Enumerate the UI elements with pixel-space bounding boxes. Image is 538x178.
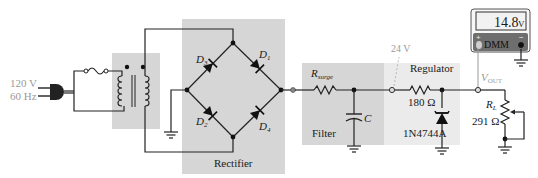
zener-part-number: 1N4744A — [403, 127, 446, 139]
dmm-label: DMM — [484, 39, 509, 50]
dmm-meter: 14.8 V + − DMM — [471, 9, 530, 52]
ground-icon-load — [498, 147, 512, 153]
ground-icon-rectifier — [164, 132, 178, 138]
series-resistor-value: 180 Ω — [408, 96, 435, 108]
load-resistor-value: 291 Ω — [472, 115, 499, 127]
transformer-block — [112, 53, 160, 129]
ground-icon-filter — [347, 146, 361, 152]
ground-icon-dmm — [514, 60, 528, 66]
load-resistor-label: RL — [485, 98, 497, 112]
dmm-unit: V — [518, 19, 525, 29]
dmm-plus-label: + — [476, 33, 481, 42]
test-point-24v — [389, 87, 394, 92]
capacitor-label: C — [364, 112, 372, 124]
ground-icon-zener — [435, 148, 449, 154]
ac-plug-icon — [38, 84, 74, 100]
source-voltage-label: 120 V — [10, 77, 37, 89]
power-supply-diagram: 120 V 60 Hz — [0, 0, 538, 178]
source-frequency-label: 60 Hz — [10, 90, 37, 102]
fuse-icon — [84, 68, 108, 74]
vout-terminal — [475, 87, 480, 92]
load-potentiometer-icon — [501, 100, 509, 124]
dmm-minus-label: − — [519, 33, 524, 42]
rectifier-label: Rectifier — [214, 157, 253, 169]
dmm-negative-jack[interactable] — [518, 42, 525, 49]
dmm-positive-jack[interactable] — [476, 41, 482, 49]
filter-label: Filter — [312, 127, 336, 139]
vout-label: VOUT — [481, 71, 503, 85]
dmm-reading: 14.8 — [494, 15, 519, 30]
test-point-voltage-label: 24 V — [391, 43, 411, 54]
regulator-label: Regulator — [410, 62, 454, 74]
rectifier-output-terminal — [291, 88, 296, 93]
